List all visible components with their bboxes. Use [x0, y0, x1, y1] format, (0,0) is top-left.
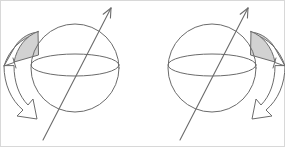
- sphere-outline-right: [168, 24, 256, 112]
- sphere-outline-left: [31, 24, 119, 112]
- figure-canvas: [0, 0, 285, 147]
- equator-ellipse-left: [31, 54, 119, 76]
- equator-ellipse-right: [168, 54, 256, 76]
- rotation-arrow-left: [4, 32, 39, 120]
- left-panel: [4, 8, 119, 140]
- right-panel: [168, 8, 285, 140]
- diagram-svg: [0, 0, 285, 147]
